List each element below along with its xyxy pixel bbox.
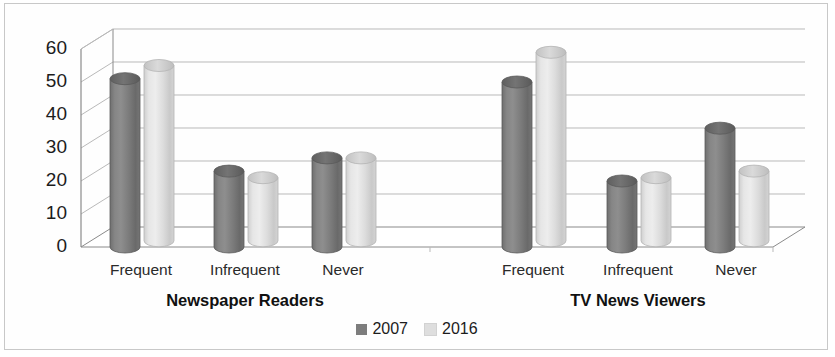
legend-item[interactable]: 2016 <box>424 320 478 338</box>
legend-swatch-icon <box>424 323 437 336</box>
chart-container: 0102030405060 FrequentInfrequentNeverFre… <box>4 3 828 350</box>
legend-label: 2016 <box>442 320 478 338</box>
group-label: Newspaper Readers <box>95 291 395 310</box>
bar-cylinder <box>502 76 532 253</box>
legend-label: 2007 <box>372 320 408 338</box>
y-axis-tick-label: 20 <box>23 169 67 191</box>
bar-cylinder <box>214 165 244 253</box>
bar-cylinder <box>110 73 140 253</box>
y-axis-tick-label: 60 <box>23 37 67 59</box>
x-axis-category-label: Frequent <box>473 261 593 279</box>
y-axis-tick-label: 30 <box>23 136 67 158</box>
chart-floor <box>81 227 805 247</box>
bar-cylinder <box>144 60 174 247</box>
legend-swatch-icon <box>356 324 367 335</box>
bar-cylinder <box>739 165 769 247</box>
gridlines <box>81 29 805 214</box>
y-axis-tick-label: 40 <box>23 103 67 125</box>
chart-legend: 20072016 <box>5 320 829 338</box>
x-axis-category-label: Frequent <box>81 261 201 279</box>
bar-cylinder <box>346 152 376 247</box>
bar-cylinder <box>607 175 637 253</box>
x-axis-category-label: Never <box>283 261 403 279</box>
bar-cylinder <box>248 172 278 247</box>
y-axis-tick-label: 10 <box>23 202 67 224</box>
bar-cylinder <box>641 172 671 247</box>
bar-cylinder <box>705 122 735 253</box>
group-label: TV News Viewers <box>488 291 788 310</box>
y-axis-tick-label: 50 <box>23 70 67 92</box>
bars-group <box>110 46 769 253</box>
x-axis-category-label: Never <box>676 261 796 279</box>
bar-cylinder <box>536 46 566 246</box>
bar-cylinder <box>312 152 342 253</box>
legend-item[interactable]: 2007 <box>356 320 408 338</box>
y-axis-tick-label: 0 <box>23 235 67 257</box>
